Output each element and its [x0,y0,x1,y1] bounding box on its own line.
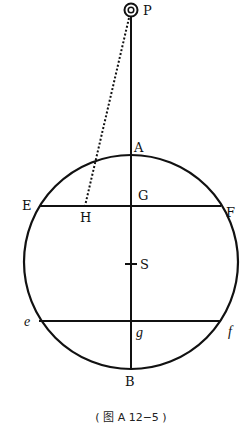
label-G: G [138,188,148,203]
label-E: E [22,198,32,213]
label-f: f [228,324,234,339]
label-P: P [143,3,152,18]
label-A: A [133,140,144,155]
label-H: H [80,210,91,225]
label-e: e [24,314,30,329]
label-g: g [136,325,143,340]
label-S: S [140,257,149,272]
dotted-line-PH [85,18,129,206]
point-P-icon [125,4,138,17]
label-F: F [226,205,235,220]
figure-caption: ( 图 A 12−5 ) [95,411,166,424]
diagram-canvas: P A E G F H S e g f B ( 图 A 12−5 ) [0,0,252,439]
label-B: B [125,374,135,389]
